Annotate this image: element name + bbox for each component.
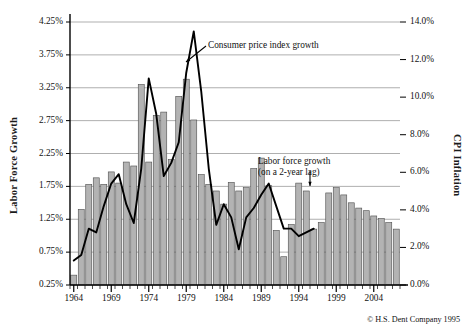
y-tick-label-right: 4.0% xyxy=(410,204,429,214)
x-tick-label: 1984 xyxy=(204,293,244,303)
y-axis-title-left-text: Labor Force Growth xyxy=(8,117,19,214)
y-tick-label-left: 2.25% xyxy=(18,148,63,158)
y-tick-label-left: 1.75% xyxy=(18,180,63,190)
annotation-cpi-growth: Consumer price index growth xyxy=(208,40,319,51)
y-tick-label-right: 0.0% xyxy=(410,279,429,289)
y-tick-label-left: 0.25% xyxy=(18,279,63,289)
copyright-credit: © H.S. Dent Company 1995 xyxy=(367,315,460,324)
y-tick-label-right: 8.0% xyxy=(410,129,429,139)
x-tick-label: 1964 xyxy=(54,293,94,303)
y-tick-label-right: 14.0% xyxy=(410,16,434,26)
x-axis-ticks xyxy=(70,285,400,292)
y-axis-title-right: CPI Inflation xyxy=(447,0,467,330)
x-tick-label: 1979 xyxy=(166,293,206,303)
x-tick-label: 1999 xyxy=(316,293,356,303)
y-tick-label-right: 2.0% xyxy=(410,241,429,251)
annotation-labor-force-growth: Labor force growth (on a 2-year lag) xyxy=(258,156,330,178)
x-tick-label: 1969 xyxy=(91,293,131,303)
chart-figure: Labor Force Growth CPI Inflation 0.25%0.… xyxy=(0,0,468,330)
y-tick-label-right: 6.0% xyxy=(410,166,429,176)
y-tick-label-left: 0.75% xyxy=(18,246,63,256)
y-tick-label-right: 12.0% xyxy=(410,54,434,64)
x-tick-label: 1994 xyxy=(279,293,319,303)
y-tick-label-left: 4.25% xyxy=(18,16,63,26)
y-tick-label-left: 3.25% xyxy=(18,82,63,92)
y-tick-label-left: 2.75% xyxy=(18,115,63,125)
annotation-labor-line-2: (on a 2-year lag) xyxy=(258,167,330,178)
y-tick-label-right: 10.0% xyxy=(410,91,434,101)
y-tick-label-left: 3.75% xyxy=(18,49,63,59)
y-axis-title-right-text: CPI Inflation xyxy=(452,134,463,196)
y-tick-label-left: 1.25% xyxy=(18,213,63,223)
annotation-cpi-growth-text: Consumer price index growth xyxy=(208,40,319,50)
x-tick-label: 1989 xyxy=(241,293,281,303)
annotation-labor-line-1: Labor force growth xyxy=(258,156,330,167)
x-tick-label: 2004 xyxy=(354,293,394,303)
x-tick-label: 1974 xyxy=(129,293,169,303)
